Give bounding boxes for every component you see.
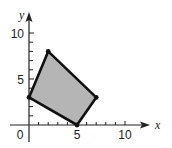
vertex-2-8 <box>46 49 51 54</box>
x-tick-label-5: 5 <box>74 128 81 142</box>
x-tick-label-0: 0 <box>17 128 24 142</box>
y-tick-label-10: 10 <box>11 27 25 41</box>
vertex-5-0 <box>75 123 80 128</box>
coordinate-graph: 0 5 10 5 10 x y <box>0 0 172 148</box>
feasible-region <box>29 51 96 125</box>
x-tick-label-10: 10 <box>118 128 132 142</box>
y-axis-label: y <box>18 8 25 22</box>
y-tick-label-5: 5 <box>17 73 24 87</box>
y-axis-ticks <box>29 33 34 116</box>
vertex-0-3 <box>27 95 32 100</box>
vertex-7-3 <box>94 95 99 100</box>
x-axis-label: x <box>154 118 161 132</box>
